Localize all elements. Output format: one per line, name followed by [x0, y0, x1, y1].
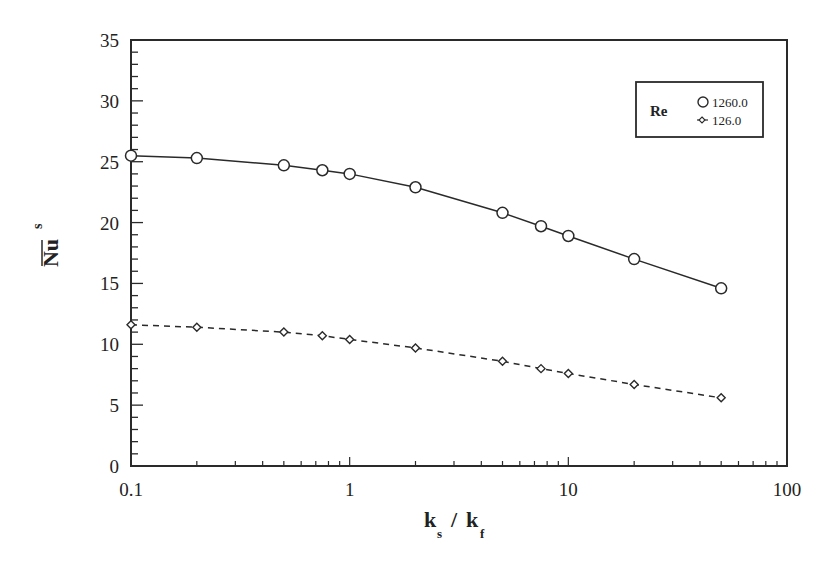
y-tick-labels: 05101520253035 — [100, 30, 119, 477]
diamond-marker-icon — [318, 332, 326, 340]
diamond-marker-icon — [630, 380, 638, 388]
circle-marker-icon — [278, 160, 289, 171]
diamond-marker-icon — [499, 357, 507, 365]
circle-marker-icon — [410, 182, 421, 193]
circle-marker-icon — [191, 153, 202, 164]
x-tick-label: 0.1 — [119, 479, 143, 500]
y-tick-label: 25 — [100, 152, 119, 173]
x-tick-label: 100 — [773, 479, 802, 500]
circle-marker-icon — [126, 150, 137, 161]
diamond-marker-icon — [127, 321, 135, 329]
series-line — [131, 156, 721, 289]
y-axis-title: Nu s — [30, 223, 63, 267]
circle-marker-icon — [563, 230, 574, 241]
series-126.0 — [127, 321, 725, 402]
x-axis-title: k s / k f — [424, 507, 485, 541]
diamond-marker-icon — [280, 328, 288, 336]
diamond-marker-icon — [193, 323, 201, 331]
y-tick-label: 10 — [100, 334, 119, 355]
circle-marker-icon — [317, 165, 328, 176]
diamond-marker-icon — [537, 365, 545, 373]
data-series — [126, 150, 727, 402]
circle-marker-icon — [344, 168, 355, 179]
diamond-marker-icon — [346, 335, 354, 343]
legend: Re 1260.0 126.0 — [636, 82, 763, 137]
y-tick-label: 35 — [100, 30, 119, 51]
circle-marker-icon — [497, 207, 508, 218]
legend-title: Re — [650, 103, 668, 119]
y-tick-label: 5 — [110, 395, 120, 416]
y-tick-label: 30 — [100, 91, 119, 112]
x-title-sub-f: f — [480, 526, 485, 541]
diamond-marker-icon — [717, 394, 725, 402]
x-tick-labels: 0.1110100 — [119, 479, 801, 500]
legend-circle-marker-icon — [698, 97, 708, 107]
y-tick-label: 20 — [100, 213, 119, 234]
legend-item-126: 126.0 — [712, 113, 741, 128]
x-title-k2: k — [466, 507, 479, 532]
x-title-slash: / — [450, 507, 458, 532]
x-tick-label: 10 — [559, 479, 578, 500]
y-title-sub: s — [30, 223, 45, 229]
diamond-marker-icon — [564, 369, 572, 377]
legend-item-1260: 1260.0 — [712, 95, 748, 110]
circle-marker-icon — [536, 221, 547, 232]
circle-marker-icon — [629, 254, 640, 265]
x-tick-label: 1 — [345, 479, 355, 500]
circle-marker-icon — [716, 283, 727, 294]
y-tick-label: 15 — [100, 273, 119, 294]
x-title-sub-s: s — [437, 526, 442, 541]
y-tick-label: 0 — [110, 456, 120, 477]
x-title-k1: k — [424, 507, 437, 532]
series-1260.0 — [126, 150, 727, 294]
chart: 05101520253035 0.1110100 Nu s k s / k f … — [0, 0, 839, 583]
diamond-marker-icon — [411, 344, 419, 352]
